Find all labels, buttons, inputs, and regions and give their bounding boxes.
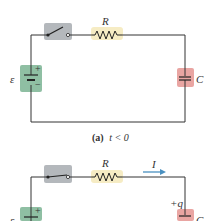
emf-label: ε: [10, 214, 15, 221]
caption-a: (a) t < 0: [92, 132, 129, 144]
current-label: I: [151, 158, 157, 170]
circuit-b: R I + ε +q C: [10, 157, 204, 221]
switch-background: [44, 23, 72, 40]
resistor-label: R: [101, 157, 109, 169]
wire-loop-a: [31, 35, 185, 122]
capacitor-label: C: [196, 214, 204, 221]
battery-plus: +: [35, 63, 41, 74]
circuit-a: R + − ε C (a) t < 0: [10, 15, 204, 144]
capacitor-label: C: [196, 73, 204, 85]
emf-label: ε: [10, 73, 15, 85]
charge-label: +q: [170, 197, 183, 209]
resistor-label: R: [101, 15, 109, 27]
switch-contact: [66, 33, 69, 36]
battery-plus: +: [35, 205, 41, 216]
battery-minus: −: [35, 79, 41, 90]
switch-contact: [66, 175, 69, 178]
circuit-diagram: R + − ε C (a) t < 0 R: [0, 0, 211, 221]
switch-background: [44, 165, 72, 183]
